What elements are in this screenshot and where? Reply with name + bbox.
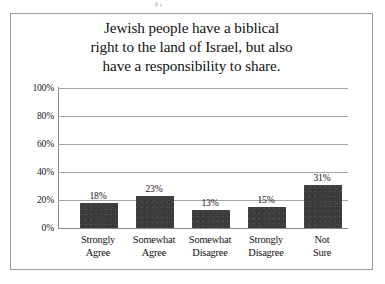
bar-value-somewhat-disagree: 13%	[182, 197, 238, 208]
plot-area: 100% 80% 60% 40% 20% 0% 18% Strongly Agr…	[58, 88, 348, 228]
ytick-label-20: 20%	[37, 194, 54, 205]
bar-value-strongly-disagree: 15%	[238, 194, 294, 205]
bar-not-sure[interactable]	[304, 185, 342, 228]
bar-group-not-sure: 31% Not Sure	[294, 88, 350, 228]
chart-title-line-3: have a responsibility to share.	[17, 56, 366, 75]
bar-group-somewhat-disagree: 13% Somewhat Disagree	[182, 88, 238, 228]
chart-title-line-1: Jewish people have a biblical	[17, 18, 366, 37]
ytick-label-80: 80%	[37, 110, 54, 121]
chart-figure-frame: Jewish people have a biblical right to t…	[10, 13, 373, 270]
chart-title: Jewish people have a biblical right to t…	[17, 18, 366, 75]
chart-title-line-2: right to the land of Israel, but also	[17, 37, 366, 56]
x-axis-baseline	[58, 228, 348, 229]
bar-group-somewhat-agree: 23% Somewhat Agree	[126, 88, 182, 228]
bar-value-not-sure: 31%	[294, 172, 350, 183]
bar-value-somewhat-agree: 23%	[126, 183, 182, 194]
bar-somewhat-agree[interactable]	[136, 196, 174, 228]
bar-strongly-agree[interactable]	[80, 203, 118, 228]
category-label-not-sure-line-1: Not	[288, 234, 356, 247]
ytick-label-0: 0%	[42, 222, 54, 233]
scan-artifact	[0, 0, 385, 11]
bar-strongly-disagree[interactable]	[248, 207, 286, 228]
bar-somewhat-disagree[interactable]	[192, 210, 230, 228]
bar-series: 18% Strongly Agree 23% Somewhat Agree 13…	[58, 88, 348, 228]
bar-value-strongly-agree: 18%	[70, 190, 126, 201]
category-label-not-sure: Not Sure	[288, 234, 356, 259]
ytick-label-60: 60%	[37, 138, 54, 149]
ytick-label-40: 40%	[37, 166, 54, 177]
category-label-not-sure-line-2: Sure	[288, 247, 356, 260]
ytick-label-100: 100%	[32, 82, 54, 93]
bar-group-strongly-disagree: 15% Strongly Disagree	[238, 88, 294, 228]
bar-group-strongly-agree: 18% Strongly Agree	[70, 88, 126, 228]
